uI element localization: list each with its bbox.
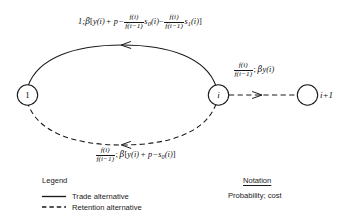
trade-s0-arg: (i) (151, 17, 159, 26)
trade-y-term: y(i) (93, 17, 105, 26)
retention-return-s0-arg: (i) (165, 150, 173, 159)
trade-fraction-1-numerator: f(i) (124, 14, 144, 22)
trade-s1-arg: (i) (191, 17, 199, 26)
edge-retention-return-label: f(i)f(i−1);β[y(i)+ p−s0(i)] (95, 147, 176, 163)
trade-fraction-1: f(i)f(i−1) (124, 14, 144, 30)
retention-return-close-bracket: ] (173, 150, 176, 159)
trade-fraction-2: f(i)f(i−1) (164, 14, 184, 30)
legend-item-retention-alternative: Retention alternative (72, 204, 142, 212)
retention-return-fraction: f(i)f(i−1) (96, 147, 116, 163)
retention-return-plus-p: + p (140, 150, 152, 159)
legend-title: Legend (42, 177, 67, 185)
diagram-canvas (0, 0, 346, 222)
edge-retention-advance-label: f(i)f(i−1);βy(i) (233, 62, 274, 78)
trade-close-bracket: ] (199, 17, 202, 26)
trade-fraction-2-denominator: f(i−1) (164, 22, 184, 31)
retention-return-fraction-denominator: f(i−1) (96, 155, 116, 164)
node-next-label: i+1 (320, 91, 333, 100)
edge-trade-return (28, 42, 216, 86)
trade-minus-2: − (159, 17, 164, 26)
retention-return-fraction-numerator: f(i) (96, 147, 116, 155)
trade-plus-p: + p (106, 17, 118, 26)
trade-fraction-2-numerator: f(i) (164, 14, 184, 22)
node-start-label: 1 (20, 91, 36, 100)
legend-item-trade-alternative: Trade alternative (72, 193, 129, 201)
notation-title: Notation (243, 177, 271, 185)
notation-body: Probability; cost (228, 192, 282, 200)
retention-advance-y-term: y(i) (262, 65, 274, 74)
retention-return-y-term: y(i) (127, 150, 139, 159)
edge-retention-advance (229, 92, 297, 99)
retention-advance-fraction-denominator: f(i−1) (234, 70, 254, 79)
trade-minus-1: − (119, 17, 124, 26)
edge-retention-return (28, 104, 216, 148)
node-current-label: i (211, 91, 227, 100)
trade-fraction-1-denominator: f(i−1) (124, 22, 144, 31)
retention-advance-semicolon: ; (254, 65, 256, 74)
retention-advance-fraction-numerator: f(i) (234, 62, 254, 70)
edge-trade-return-label: 1;β[y(i)+ p−f(i)f(i−1)s0(i)−f(i)f(i−1)s1… (78, 14, 202, 30)
node-next (297, 85, 317, 105)
retention-advance-fraction: f(i)f(i−1) (234, 62, 254, 78)
retention-return-semicolon: ; (116, 150, 118, 159)
